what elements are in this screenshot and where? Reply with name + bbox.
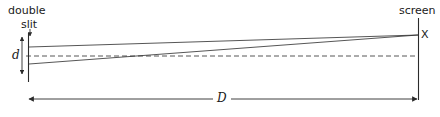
slit-separation-label: d <box>12 49 20 61</box>
upper-light-ray <box>29 35 418 47</box>
double-slit-label-line2: slit <box>21 19 37 30</box>
double-slit-diagram: double slit screen X d D <box>0 0 440 117</box>
double-slit-label-line1: double <box>8 5 46 16</box>
screen-label: screen <box>399 5 436 16</box>
distance-D-label: D <box>217 92 227 104</box>
point-x-label: X <box>421 29 429 40</box>
lower-light-ray <box>29 35 418 64</box>
